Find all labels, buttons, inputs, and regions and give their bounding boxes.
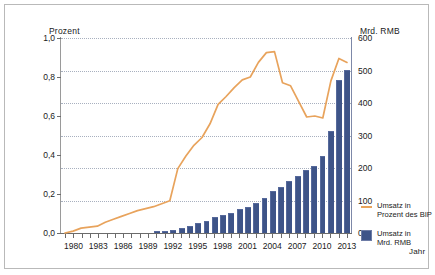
left-tick-label: 0,4 [31, 150, 55, 160]
x-tick-mark [223, 234, 224, 238]
legend-label: Umsatz inProzent des BIP [377, 201, 432, 220]
right-tick-label: 200 [358, 163, 372, 173]
right-tick-label: 500 [358, 66, 372, 76]
x-tick-mark [314, 234, 315, 238]
left-tick-label: 0,2 [31, 189, 55, 199]
x-tick-mark [330, 234, 331, 238]
x-tick-mark [297, 234, 298, 238]
x-tick-mark [115, 234, 116, 238]
right-tick-label: 400 [358, 98, 372, 108]
legend-label-line2: Prozent des BIP [377, 210, 432, 219]
chart-legend: Umsatz inProzent des BIPUmsatz inMrd. RM… [361, 201, 435, 257]
left-tick-label: 0,0 [31, 228, 55, 238]
x-tick-mark [281, 234, 282, 238]
legend-item: Umsatz inProzent des BIP [361, 201, 435, 220]
line-series [61, 38, 351, 233]
x-tick-mark [173, 234, 174, 238]
x-tick-mark [98, 234, 99, 238]
legend-item: Umsatz inMrd. RMB [361, 229, 435, 248]
x-tick-mark [65, 234, 66, 238]
x-tick-mark [73, 234, 74, 238]
x-tick-mark [339, 234, 340, 238]
x-tick-mark [82, 234, 83, 238]
x-tick-mark [305, 234, 306, 238]
x-tick-mark [90, 234, 91, 238]
x-tick-mark [231, 234, 232, 238]
x-tick-mark [165, 234, 166, 238]
x-tick-mark [189, 234, 190, 238]
x-tick-mark [156, 234, 157, 238]
x-tick-label: 2013 [332, 241, 362, 251]
x-tick-mark [198, 234, 199, 238]
legend-line-swatch-icon [361, 206, 372, 208]
x-tick-mark [239, 234, 240, 238]
legend-label: Umsatz inMrd. RMB [377, 229, 411, 248]
chart-frame: Prozent Mrd. RMB Jahr 1,00,80,60,40,20,0… [4, 4, 429, 269]
left-tick-label: 0,6 [31, 111, 55, 121]
right-tick-label: 600 [358, 33, 372, 43]
left-tick-label: 0,8 [31, 72, 55, 82]
x-tick-mark [256, 234, 257, 238]
legend-label-line1: Umsatz in [377, 229, 411, 238]
x-tick-mark [131, 234, 132, 238]
x-tick-mark [123, 234, 124, 238]
x-tick-mark [347, 234, 348, 238]
x-tick-mark [107, 234, 108, 238]
right-axis-line [351, 37, 352, 234]
x-tick-mark [272, 234, 273, 238]
x-tick-mark [214, 234, 215, 238]
left-tick-mark [57, 233, 61, 234]
left-tick-label: 1,0 [31, 33, 55, 43]
x-tick-mark [322, 234, 323, 238]
legend-label-line1: Umsatz in [377, 201, 432, 210]
legend-label-line2: Mrd. RMB [377, 238, 411, 247]
x-tick-mark [148, 234, 149, 238]
legend-square-swatch-icon [361, 230, 372, 241]
x-tick-mark [140, 234, 141, 238]
x-tick-mark [247, 234, 248, 238]
x-tick-mark [264, 234, 265, 238]
x-tick-mark [206, 234, 207, 238]
plot-area [61, 38, 351, 233]
x-tick-mark [181, 234, 182, 238]
x-tick-mark [289, 234, 290, 238]
right-tick-label: 300 [358, 131, 372, 141]
